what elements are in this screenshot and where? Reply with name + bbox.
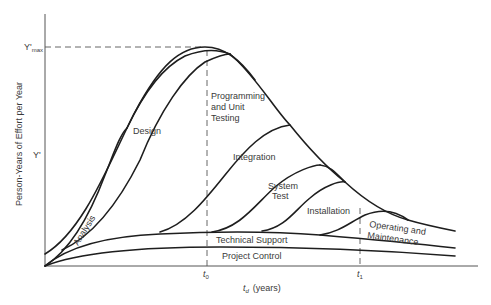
project-control-label: Project Control [222, 251, 282, 261]
programming-label-1: Programming [211, 91, 265, 101]
system-test-curve [212, 165, 320, 232]
analysis-label: Analysis [71, 213, 98, 247]
integration-label: Integration [233, 152, 276, 162]
analysis-curve [45, 47, 255, 254]
technical-support-label: Technical Support [216, 235, 288, 245]
installation-label: Installation [307, 206, 350, 216]
y-axis-label: Person-Years of Effort per Year [14, 82, 24, 206]
t1-label: t1 [357, 269, 364, 280]
ymax-label: Y'max [24, 42, 43, 53]
integration-curve [160, 125, 290, 232]
effort-chart: Person-Years of Effort per Year Y'max Y'… [0, 0, 491, 305]
system-test-label-2: Test [272, 191, 289, 201]
y-prime-label: Y' [33, 150, 41, 160]
programming-label-3: Testing [211, 113, 240, 123]
system-test-label-1: System [268, 181, 298, 191]
programming-label-2: and Unit [211, 102, 245, 112]
x-axis-label: td(years) [243, 283, 281, 294]
t0-label: t0 [203, 269, 210, 280]
design-label: Design [133, 126, 161, 136]
envelope-descending [230, 54, 455, 231]
